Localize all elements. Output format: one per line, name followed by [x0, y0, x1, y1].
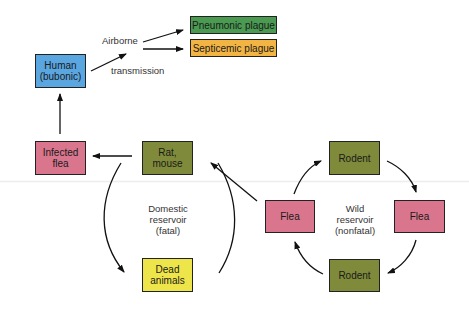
label-line: Wild	[333, 203, 377, 214]
arrow-to-pneumonic	[143, 30, 183, 42]
arrow-fleaL-to-rodentTop	[294, 161, 321, 194]
node-label: mouse	[152, 158, 182, 169]
node-pneumonic-plague: Pneumonic plague	[190, 16, 277, 34]
node-label: Rodent	[338, 270, 370, 281]
label-wild-reservoir: Wild reservoir (nonfatal)	[333, 203, 377, 236]
label-line: reservoir	[333, 214, 377, 225]
label-line: (fatal)	[148, 225, 188, 236]
node-label: Flea	[410, 211, 429, 222]
label-transmission: transmission	[111, 65, 164, 76]
node-rat-mouse: Rat,mouse	[142, 141, 193, 175]
node-septicemic-plague: Septicemic plague	[190, 39, 277, 57]
node-flea-left: Flea	[265, 200, 315, 233]
node-label: Rat,	[152, 147, 182, 158]
arrow-fleaR-to-rodentBottom	[388, 240, 416, 273]
label-line: reservoir	[148, 214, 188, 225]
node-label: flea	[43, 158, 79, 169]
label-domestic-reservoir: Domestic reservoir (fatal)	[148, 203, 188, 236]
node-label: Rodent	[338, 153, 370, 164]
node-label: Dead	[150, 264, 184, 275]
node-human-bubonic: Human(bubonic)	[35, 54, 86, 88]
node-label: Pneumonic plague	[192, 20, 275, 31]
node-rodent-bottom: Rodent	[329, 259, 380, 292]
node-label: animals	[150, 275, 184, 286]
arrow-rodentBottom-to-fleaL	[295, 242, 323, 274]
arrow-rodentTop-to-fleaR	[387, 161, 416, 192]
arrow-fleaL-to-rat	[211, 163, 257, 201]
node-dead-animals: Deadanimals	[142, 258, 193, 292]
arrow-dead-to-rat	[218, 163, 235, 273]
node-rodent-top: Rodent	[329, 141, 380, 175]
node-label: Human	[40, 60, 82, 71]
node-label: Flea	[280, 211, 299, 222]
node-label: Infected	[43, 147, 79, 158]
node-label: (bubonic)	[40, 71, 82, 82]
node-infected-flea: Infectedflea	[35, 141, 86, 175]
node-flea-right: Flea	[394, 200, 445, 233]
label-line: Domestic	[148, 203, 188, 214]
label-line: (nonfatal)	[333, 225, 377, 236]
node-label: Septicemic plague	[193, 43, 275, 54]
arrow-rat-to-dead	[104, 163, 124, 272]
label-airborne: Airborne	[102, 35, 138, 46]
